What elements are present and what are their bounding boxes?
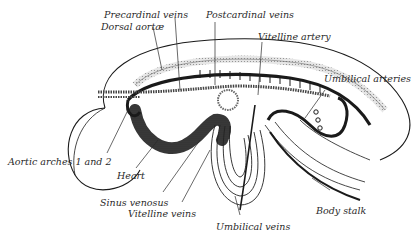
embryo-diagram: Precardinal veins Dorsal aortæ Postcardi…	[0, 0, 417, 236]
label-heart: Heart	[117, 171, 145, 181]
label-aortic-arches: Aortic arches 1 and 2	[8, 157, 111, 167]
label-umbilical-veins: Umbilical veins	[216, 222, 290, 232]
embryo-illustration	[0, 0, 417, 236]
label-umbilical-arteries: Umbilical arteries	[324, 74, 411, 84]
label-dorsal-aortae: Dorsal aortæ	[101, 22, 164, 32]
label-precardinal-veins: Precardinal veins	[104, 10, 188, 20]
label-vitelline-artery: Vitelline artery	[258, 32, 331, 42]
label-vitelline-veins: Vitelline veins	[128, 209, 196, 219]
label-postcardinal-veins: Postcardinal veins	[206, 10, 294, 20]
label-sinus-venosus: Sinus venosus	[100, 198, 168, 208]
label-body-stalk: Body stalk	[316, 206, 366, 216]
